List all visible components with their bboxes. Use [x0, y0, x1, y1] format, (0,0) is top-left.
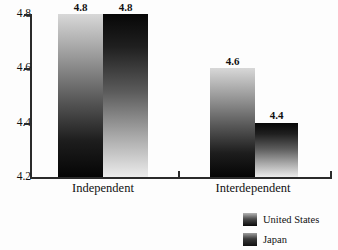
legend-swatch-icon-united-states: [243, 213, 257, 226]
bar-independent-united-states[interactable]: [58, 14, 103, 177]
legend-swatch-icon-japan: [243, 233, 257, 246]
y-tick-mark-4-6: [24, 68, 31, 70]
x-axis-label-interdependent: Interdependent: [183, 181, 323, 195]
x-axis-label-independent: Independent: [38, 181, 168, 195]
y-tick-label: 4.2: [7, 171, 31, 183]
bar-value-independent-united-states: 4.8: [58, 2, 103, 13]
y-tick-group-4-2: 4.2: [0, 171, 31, 183]
legend-item-japan[interactable]: Japan: [243, 231, 338, 248]
legend-label-japan: Japan: [263, 234, 287, 245]
bar-chart: 4.8 4.6 4.4 4.2 4.8 4.8 4.6 4.4 Independ…: [0, 0, 338, 250]
legend-item-united-states[interactable]: United States: [243, 211, 338, 228]
y-tick-mark-4-4: [24, 123, 31, 125]
x-axis-line: [30, 177, 332, 179]
bar-value-interdependent-japan: 4.4: [255, 110, 298, 121]
bar-value-interdependent-united-states: 4.6: [210, 56, 255, 67]
legend: United States Japan: [243, 211, 338, 250]
plot-area: [32, 14, 332, 177]
bar-interdependent-united-states[interactable]: [210, 68, 255, 177]
bar-value-independent-japan: 4.8: [103, 2, 148, 13]
legend-label-united-states: United States: [263, 214, 319, 225]
bar-independent-japan[interactable]: [103, 14, 148, 177]
y-tick-mark-4-8: [24, 14, 31, 16]
bar-interdependent-japan[interactable]: [255, 123, 298, 177]
